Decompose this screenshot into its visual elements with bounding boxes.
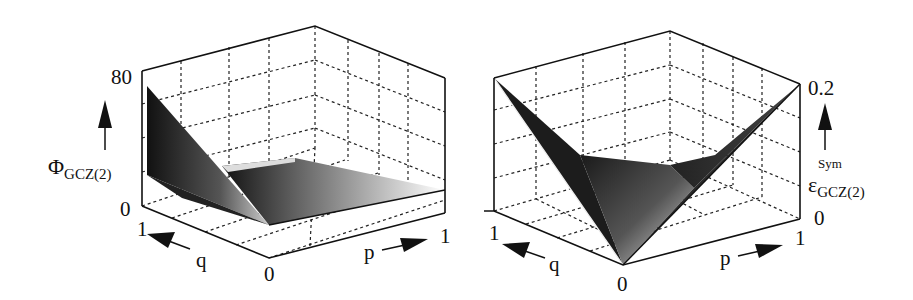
right-surface bbox=[494, 78, 800, 265]
right-q-arrow-icon bbox=[502, 242, 545, 258]
right-z-symbol: ε bbox=[808, 172, 817, 197]
left-q-tick-max: 1 bbox=[137, 219, 148, 240]
right-plot bbox=[484, 31, 832, 265]
right-p-tick-max: 1 bbox=[795, 228, 806, 249]
left-p-arrow-icon bbox=[382, 238, 428, 252]
left-z-symbol: Φ bbox=[48, 154, 64, 179]
left-z-subscript: GCZ(2) bbox=[64, 166, 112, 182]
left-z-tick-max: 80 bbox=[111, 67, 132, 88]
left-q-tick-min: 0 bbox=[264, 264, 275, 285]
left-plot bbox=[98, 26, 445, 258]
left-surface bbox=[147, 86, 445, 225]
left-p-tick-max: 1 bbox=[440, 226, 451, 247]
right-z-tick-min: 0 bbox=[814, 208, 825, 229]
plots-canvas bbox=[0, 0, 913, 300]
right-q-tick-min: 0 bbox=[617, 274, 628, 295]
left-q-label: q bbox=[196, 250, 207, 271]
right-z-superscript: Sym bbox=[818, 156, 842, 172]
right-p-arrow-icon bbox=[738, 244, 783, 258]
left-z-arrow-icon bbox=[98, 100, 112, 150]
right-z-subscript: GCZ(2) bbox=[817, 184, 865, 200]
right-z-axis-title: εGCZ(2) bbox=[808, 174, 865, 200]
left-p-label: p bbox=[364, 242, 375, 263]
right-z-arrow-icon bbox=[818, 103, 832, 150]
left-z-tick-min: 0 bbox=[120, 199, 131, 220]
right-q-tick-max: 1 bbox=[489, 223, 500, 244]
left-q-arrow-icon bbox=[147, 232, 190, 249]
left-z-axis-title: ΦGCZ(2) bbox=[48, 156, 112, 182]
right-p-label: p bbox=[720, 248, 731, 269]
right-q-label: q bbox=[549, 254, 560, 275]
right-z-tick-max: 0.2 bbox=[808, 78, 834, 99]
